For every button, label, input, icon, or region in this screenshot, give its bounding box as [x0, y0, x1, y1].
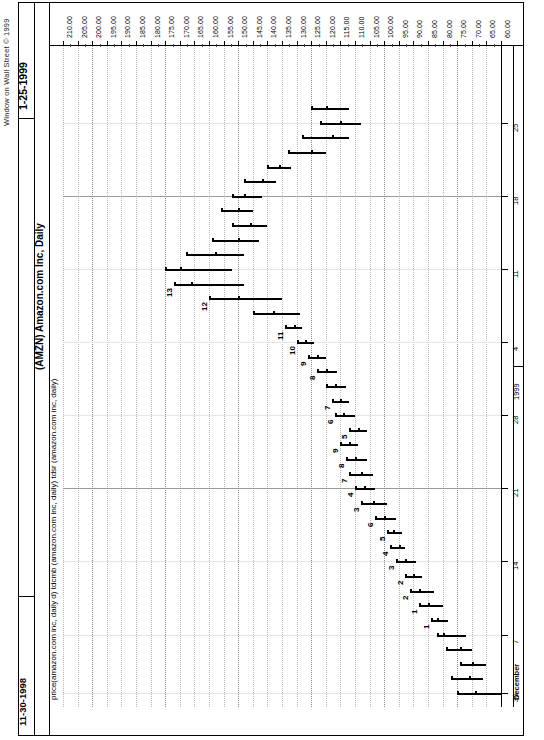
- date-gridline: [63, 269, 501, 270]
- price-tick-label: 60.00: [504, 20, 511, 38]
- close-tick: [180, 267, 182, 271]
- close-tick: [332, 135, 334, 139]
- open-tick: [355, 486, 357, 490]
- bar-annotation: 8: [308, 376, 317, 380]
- bar-annotation: 5: [378, 537, 387, 541]
- date-tick: [502, 342, 508, 343]
- price-tick-label: 195.00: [110, 16, 117, 38]
- open-tick: [361, 501, 363, 505]
- close-tick: [355, 457, 357, 461]
- close-tick: [294, 325, 296, 329]
- bar-annotation: 10: [288, 346, 297, 355]
- month-separator: [513, 366, 524, 367]
- bar-annotation: 4: [346, 493, 355, 497]
- close-tick: [335, 384, 337, 388]
- price-gridline: [63, 46, 65, 707]
- open-tick: [285, 325, 287, 329]
- price-gridline: [340, 46, 342, 707]
- date-tick: [502, 196, 508, 197]
- open-tick: [410, 589, 412, 593]
- date-tick: [502, 269, 508, 270]
- price-tick-label: 120.00: [329, 16, 336, 38]
- price-axis: 210.00205.00200.00195.00190.00185.00180.…: [63, 2, 501, 46]
- close-tick: [238, 296, 240, 300]
- price-gridline: [370, 46, 372, 707]
- open-tick: [396, 559, 398, 563]
- open-tick: [346, 457, 348, 461]
- price-tick-label: 145.00: [256, 16, 263, 38]
- close-tick: [393, 530, 395, 534]
- open-tick: [311, 106, 313, 110]
- open-tick: [326, 384, 328, 388]
- close-tick: [358, 428, 360, 432]
- plot-area[interactable]: 11223456347895678910111213: [63, 46, 501, 707]
- chart-title: (AMZN) Amazon.com Inc, Daily: [34, 223, 45, 370]
- open-tick: [297, 340, 299, 344]
- price-tick-label: 110.00: [358, 17, 365, 39]
- price-gridline: [224, 46, 226, 707]
- date-gridline: [63, 123, 501, 124]
- price-gridline: [253, 46, 255, 707]
- date-gridline: [63, 488, 501, 489]
- close-tick: [305, 340, 307, 344]
- open-tick: [349, 428, 351, 432]
- date-gridline: [63, 635, 501, 636]
- price-gridline: [355, 46, 357, 707]
- price-gridline: [180, 46, 182, 707]
- open-tick: [232, 194, 234, 198]
- close-tick: [343, 413, 345, 417]
- price-tick-label: 80.00: [446, 20, 453, 38]
- close-tick: [250, 223, 252, 227]
- bar-annotation: 3: [352, 507, 361, 511]
- bar-annotation: 9: [299, 361, 308, 365]
- price-bar: [457, 693, 501, 695]
- bar-annotation: 9: [331, 449, 340, 453]
- price-tick-label: 130.00: [300, 16, 307, 38]
- open-tick: [419, 603, 421, 607]
- close-tick: [326, 106, 328, 110]
- open-tick: [457, 691, 459, 695]
- price-gridline: [472, 46, 474, 707]
- price-tick-label: 210.00: [66, 16, 73, 38]
- open-tick: [431, 618, 433, 622]
- price-tick-label: 205.00: [81, 16, 88, 38]
- open-tick: [267, 165, 269, 169]
- bar-annotation: 1: [422, 624, 431, 628]
- price-bar: [437, 635, 466, 637]
- price-bar: [244, 181, 276, 183]
- price-gridline: [443, 46, 445, 707]
- price-bar: [419, 605, 442, 607]
- price-bar: [253, 313, 300, 315]
- close-tick: [472, 662, 474, 666]
- bar-annotation: 4: [381, 551, 390, 555]
- vendor-copyright: Window on Wall Street © 1999: [2, 18, 11, 126]
- study-description: price(amazon.com inc, daily d) tdcmb (am…: [49, 379, 58, 700]
- open-tick: [302, 135, 304, 139]
- bar-annotation: 3: [387, 566, 396, 570]
- price-tick-label: 160.00: [212, 16, 219, 38]
- open-tick: [332, 399, 334, 403]
- price-bar: [288, 152, 326, 154]
- close-tick: [384, 516, 386, 520]
- price-gridline: [136, 46, 138, 707]
- year-label: 1999: [512, 383, 521, 400]
- price-bar: [209, 298, 282, 300]
- close-tick: [405, 559, 407, 563]
- price-tick-label: 150.00: [241, 16, 248, 38]
- date-gridline: [63, 415, 501, 416]
- open-tick: [387, 530, 389, 534]
- open-tick: [253, 311, 255, 315]
- date-tick: [502, 561, 508, 562]
- close-tick: [364, 486, 366, 490]
- close-tick: [279, 165, 281, 169]
- date-tick: [502, 123, 508, 124]
- open-tick: [186, 252, 188, 256]
- price-gridline: [413, 46, 415, 707]
- open-tick: [212, 238, 214, 242]
- close-tick: [443, 633, 445, 637]
- date-range-start: 11-30-1998: [17, 678, 28, 726]
- bar-annotation: 6: [326, 420, 335, 424]
- open-tick: [244, 179, 246, 183]
- open-tick: [317, 369, 319, 373]
- close-tick: [413, 574, 415, 578]
